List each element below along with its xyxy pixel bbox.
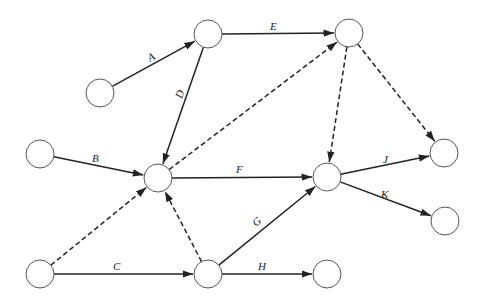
edge-label-j: J bbox=[383, 153, 389, 165]
node-n11 bbox=[313, 260, 341, 288]
node-n4 bbox=[26, 140, 54, 168]
edge-label-g: G bbox=[250, 214, 264, 228]
node-n6 bbox=[313, 163, 341, 191]
edge-e bbox=[222, 33, 334, 34]
dummy-edge-n3-n7 bbox=[358, 44, 435, 141]
activity-network-diagram: A E D B F C G H J K bbox=[0, 0, 482, 306]
edges-layer bbox=[51, 33, 435, 274]
node-n8 bbox=[431, 207, 459, 235]
edge-f bbox=[172, 177, 312, 178]
edge-d bbox=[163, 47, 203, 164]
edge-label-e: E bbox=[269, 20, 277, 32]
labels-layer: A E D B F C G H J K bbox=[92, 20, 389, 272]
dummy-edge-n3-n6 bbox=[329, 47, 347, 162]
edge-label-k: K bbox=[380, 188, 389, 200]
edge-label-h: H bbox=[257, 260, 267, 272]
dummy-edge-n9-n5 bbox=[51, 187, 147, 265]
edge-g bbox=[219, 186, 316, 265]
node-n1 bbox=[86, 79, 114, 107]
node-n10 bbox=[194, 260, 222, 288]
edge-label-f: F bbox=[235, 163, 243, 175]
edge-a bbox=[112, 41, 195, 86]
node-n2 bbox=[194, 20, 222, 48]
node-n7 bbox=[430, 139, 458, 167]
node-n9 bbox=[26, 260, 54, 288]
dummy-edge-n10-n5 bbox=[165, 191, 202, 261]
edge-label-c: C bbox=[113, 260, 121, 272]
dummy-edge-n5-n3 bbox=[169, 42, 337, 169]
node-n5 bbox=[144, 164, 172, 192]
edge-label-b: B bbox=[92, 152, 99, 164]
node-n3 bbox=[335, 19, 363, 47]
edge-label-d: D bbox=[172, 88, 186, 100]
nodes-layer bbox=[26, 19, 459, 288]
